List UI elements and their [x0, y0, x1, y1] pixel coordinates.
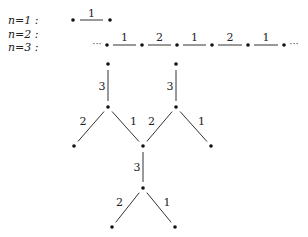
graph-node [110, 225, 114, 229]
ellipsis-right: ··· [289, 38, 299, 49]
edge-label: 1 [121, 31, 128, 44]
edge-label: 2 [80, 115, 87, 128]
graph-node [174, 105, 178, 109]
graph-n1: 1 [71, 7, 112, 22]
edge-label: 1 [191, 31, 198, 44]
ellipsis-left: ··· [92, 38, 102, 49]
graph-n3: 321321321 [72, 62, 213, 229]
edge-label: 1 [130, 115, 137, 128]
edge-label: 1 [164, 196, 171, 209]
edge-label: 1 [198, 115, 205, 128]
graph-node [210, 43, 214, 47]
edge-label: 2 [148, 115, 155, 128]
graph-node [106, 62, 110, 66]
graph-node [174, 62, 178, 66]
edge-label: 3 [167, 80, 174, 93]
graph-diagram: n=1 :n=2 :n=3 : 1 ······12121 321321321 [0, 0, 308, 237]
edge-label: 2 [227, 31, 234, 44]
graph-node [141, 186, 145, 190]
graph-node [72, 144, 76, 148]
graph-node [141, 144, 145, 148]
row-labels: n=1 :n=2 :n=3 : [8, 14, 39, 54]
graph-node [209, 144, 213, 148]
edge-label: 3 [134, 161, 141, 174]
graph-node [246, 43, 250, 47]
edge-label: 1 [263, 31, 270, 44]
edge-label: 2 [116, 196, 123, 209]
row-label: n=3 : [8, 41, 39, 54]
graph-n2: ······12121 [92, 31, 299, 49]
row-label: n=1 : [8, 14, 39, 27]
graph-node [71, 18, 75, 22]
graph-node [106, 105, 110, 109]
graph-node [105, 43, 109, 47]
edge-label: 3 [99, 80, 106, 93]
graph-node [108, 18, 112, 22]
graph-node [175, 43, 179, 47]
row-label: n=2 : [8, 28, 39, 41]
graph-node [173, 225, 177, 229]
graph-node [140, 43, 144, 47]
edge-label: 1 [88, 7, 95, 20]
graph-node [282, 43, 286, 47]
edge-label: 2 [156, 31, 163, 44]
